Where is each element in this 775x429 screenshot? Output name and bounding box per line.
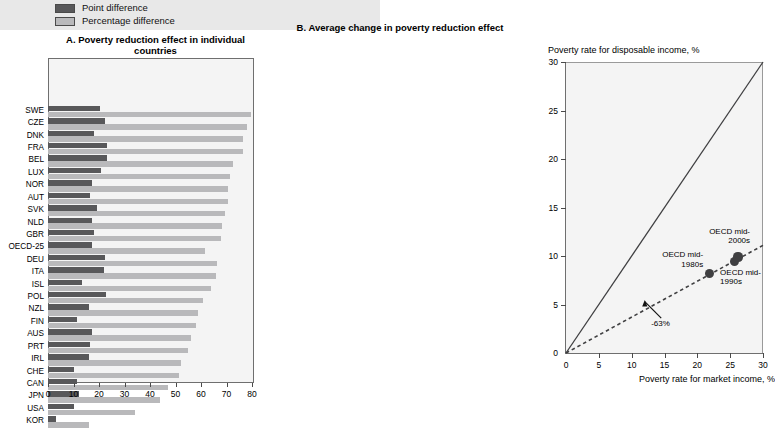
- bar-row: CHE: [0, 367, 262, 379]
- bar-row: SVK: [0, 205, 262, 217]
- bar-category-label: USA: [27, 404, 44, 413]
- label-line-2: 1990s: [720, 277, 742, 286]
- bar-category-label: CHE: [27, 367, 44, 376]
- bar-row: AUT: [0, 193, 262, 205]
- bar-point-difference: [48, 131, 94, 136]
- bar-category-label: JPN: [29, 391, 44, 400]
- bar-percentage-difference: [48, 124, 247, 129]
- bar-point-difference: [48, 367, 74, 372]
- x-tick-label: 70: [222, 389, 231, 399]
- x-tick: [665, 353, 666, 358]
- bar-point-difference: [48, 118, 105, 123]
- bar-row: BEL: [0, 155, 262, 167]
- label-line-1: OECD mid-: [709, 227, 750, 236]
- bar-percentage-difference: [48, 248, 205, 253]
- x-tick: [48, 383, 49, 387]
- bar-point-difference: [48, 205, 97, 210]
- bar-percentage-difference: [48, 422, 89, 427]
- scatter-point-label: OECD mid-1990s: [720, 268, 761, 286]
- y-tick-label: 20: [549, 154, 558, 164]
- bar-point-difference: [48, 267, 104, 272]
- scatter-point: [705, 269, 714, 278]
- x-tick-label: 30: [120, 389, 129, 399]
- bar-category-label: NZL: [29, 304, 44, 313]
- legend-item-percentage-difference: Percentage difference: [55, 16, 175, 26]
- x-tick: [125, 383, 126, 387]
- legend-label-percentage-difference: Percentage difference: [82, 16, 175, 26]
- bar-category-label: AUS: [27, 329, 44, 338]
- x-tick-label: 25: [725, 360, 734, 370]
- bar-category-label: IRL: [31, 354, 44, 363]
- bar-percentage-difference: [48, 199, 228, 204]
- bar-percentage-difference: [48, 186, 228, 191]
- y-tick-label: 0: [553, 348, 558, 358]
- bar-row: USA: [0, 404, 262, 416]
- bar-point-difference: [48, 193, 90, 198]
- bar-row: FIN: [0, 317, 262, 329]
- x-tick-label: 20: [693, 360, 702, 370]
- bar-percentage-difference: [48, 211, 225, 216]
- bar-category-label: DEU: [27, 255, 44, 264]
- bar-percentage-difference: [48, 286, 211, 291]
- bar-row: PRT: [0, 342, 262, 354]
- y-tick: [561, 305, 566, 306]
- x-tick: [730, 353, 731, 358]
- panel-b-lines: [566, 62, 763, 353]
- panel-b-x-axis-label: Poverty rate for market income, %: [565, 374, 775, 384]
- y-tick: [561, 256, 566, 257]
- panel-a-x-ticks: [48, 383, 254, 388]
- bar-category-label: SVK: [28, 205, 44, 214]
- bar-point-difference: [48, 317, 77, 322]
- bar-point-difference: [48, 342, 90, 347]
- bar-row: CZE: [0, 118, 262, 130]
- x-tick: [150, 383, 151, 387]
- bar-category-label: OECD-25: [9, 242, 45, 251]
- bar-category-label: KOR: [26, 416, 44, 425]
- x-tick-label: 15: [660, 360, 669, 370]
- y-tick: [561, 62, 566, 63]
- x-tick: [201, 383, 202, 387]
- bar-percentage-difference: [48, 112, 251, 117]
- scatter-point-label: OECD mid-2000s: [692, 227, 750, 245]
- bar-percentage-difference: [48, 161, 233, 166]
- bar-point-difference: [48, 292, 106, 297]
- bar-category-label: NOR: [26, 180, 44, 189]
- bar-category-label: PRT: [28, 342, 44, 351]
- bar-percentage-difference: [48, 136, 243, 141]
- x-tick: [697, 353, 698, 358]
- bar-row: NZL: [0, 304, 262, 316]
- bar-category-label: DNK: [27, 131, 44, 140]
- bar-row: AUS: [0, 329, 262, 341]
- panel-a-x-tick-labels: 01020304050607080: [48, 389, 254, 401]
- bar-point-difference: [48, 168, 101, 173]
- x-tick-label: 50: [171, 389, 180, 399]
- scatter-point: [733, 252, 742, 261]
- bar-row: FRA: [0, 143, 262, 155]
- y-tick: [561, 208, 566, 209]
- bar-category-label: FIN: [31, 317, 44, 326]
- bar-percentage-difference: [48, 323, 196, 328]
- bar-point-difference: [48, 354, 89, 359]
- bar-point-difference: [48, 180, 92, 185]
- bar-row: ITA: [0, 267, 262, 279]
- bar-row: LUX: [0, 168, 262, 180]
- bar-category-label: CAN: [27, 379, 44, 388]
- label-line-1: OECD mid-: [662, 250, 703, 259]
- bar-row: GBR: [0, 230, 262, 242]
- bar-point-difference: [48, 155, 107, 160]
- y-tick-label: 25: [549, 106, 558, 116]
- panel-b-y-axis-label: Poverty rate for disposable income, %: [548, 45, 700, 55]
- panel-b-plot-area: 051015202530051015202530-63%OECD mid-198…: [565, 62, 763, 354]
- x-tick: [632, 353, 633, 358]
- 45-degree-line: [566, 62, 763, 353]
- x-tick-label: 10: [69, 389, 78, 399]
- legend-item-point-difference: Point difference: [55, 3, 148, 13]
- scatter-point-label: OECD mid-1980s: [641, 250, 703, 268]
- bar-row: SWE: [0, 106, 262, 118]
- bar-point-difference: [48, 218, 92, 223]
- bar-point-difference: [48, 416, 56, 421]
- bar-percentage-difference: [48, 174, 230, 179]
- bar-point-difference: [48, 230, 94, 235]
- bar-point-difference: [48, 106, 100, 111]
- bar-percentage-difference: [48, 373, 179, 378]
